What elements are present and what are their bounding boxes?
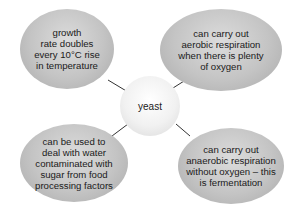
center-node-yeast: yeast	[120, 76, 180, 136]
center-label: yeast	[138, 101, 162, 112]
node-bottom-right: can carry out anaerobic respiration with…	[178, 128, 284, 204]
node-text: can be used to deal with water contamina…	[35, 136, 113, 191]
connector-bottom-left	[112, 124, 128, 136]
connector-bottom-right	[176, 124, 190, 136]
node-text: can carry out anaerobic respiration with…	[186, 144, 276, 188]
node-top-left: growth rate doubles every 10°C rise in t…	[20, 9, 114, 89]
node-bottom-left: can be used to deal with water contamina…	[20, 124, 128, 202]
node-text: can carry out aerobic respiration when t…	[178, 28, 263, 72]
yeast-concept-diagram: growth rate doubles every 10°C rise in t…	[0, 0, 295, 207]
node-text: growth rate doubles every 10°C rise in t…	[34, 27, 100, 71]
node-top-right: can carry out aerobic respiration when t…	[160, 9, 282, 91]
